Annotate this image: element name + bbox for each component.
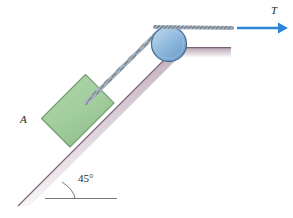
tension-force-arrow xyxy=(237,23,288,34)
physics-diagram: A T 45° xyxy=(0,0,293,218)
cable-inclined-segment xyxy=(86,32,158,103)
pulley xyxy=(152,27,187,62)
diagram-canvas xyxy=(0,0,293,218)
block-label-A: A xyxy=(20,113,27,125)
cable-horizontal-segment xyxy=(155,27,232,28)
angle-arc xyxy=(62,182,75,199)
angle-label: 45° xyxy=(78,172,93,184)
tension-label-T: T xyxy=(271,4,277,16)
angle-annotation xyxy=(45,182,117,199)
pulley-wheel xyxy=(152,27,187,62)
incline-top-edge xyxy=(18,54,170,206)
arrow-head xyxy=(278,23,288,34)
cable-incline-outline xyxy=(86,32,158,103)
incline-surface xyxy=(18,54,182,206)
inclined-plane xyxy=(18,54,182,206)
